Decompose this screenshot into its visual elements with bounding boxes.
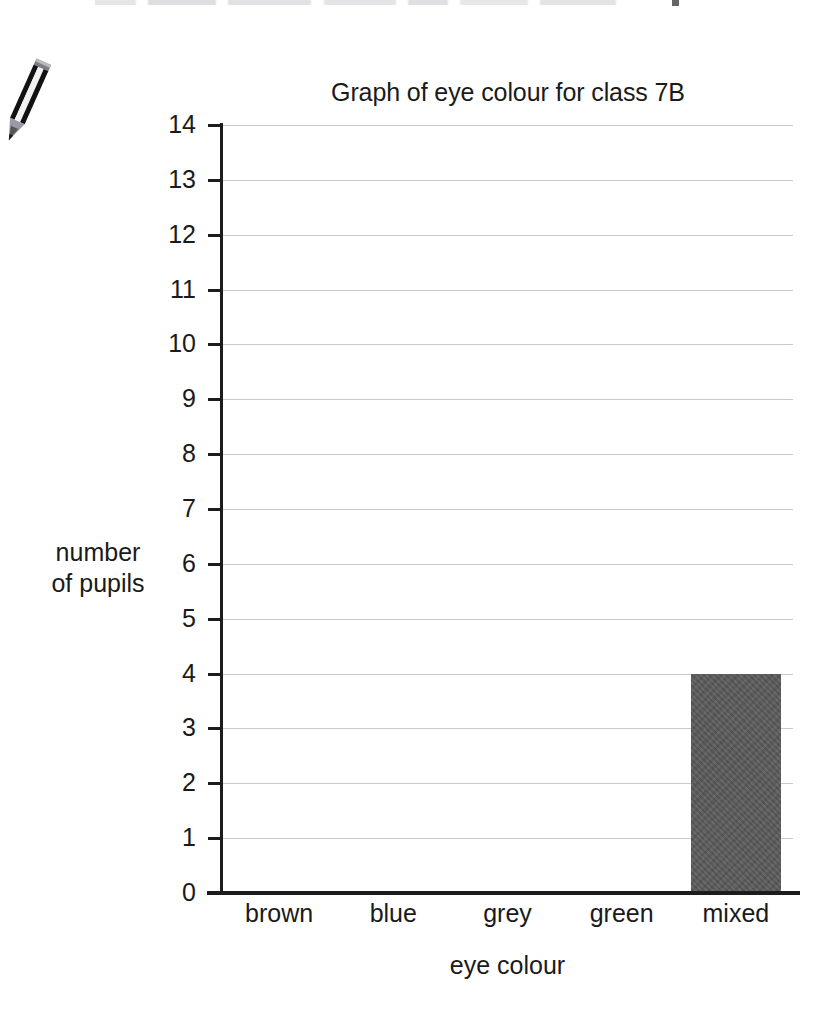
y-axis-tick-label: 8 [152, 441, 196, 466]
gridline [222, 399, 793, 400]
x-axis-category-label: mixed [679, 899, 793, 927]
y-axis-tick [208, 179, 222, 182]
x-axis-title: eye colour [222, 951, 793, 980]
y-axis-tick [208, 727, 222, 730]
y-axis-tick [208, 673, 222, 676]
y-axis-tick [208, 234, 222, 237]
y-axis-title-line: of pupils [18, 568, 178, 599]
y-axis-tick [208, 782, 222, 785]
gridline [222, 509, 793, 510]
gridline [222, 180, 793, 181]
y-axis-tick-label: 2 [152, 770, 196, 795]
y-axis-tick [208, 563, 222, 566]
y-axis-tick-label: 12 [152, 222, 196, 247]
x-axis-category-label: blue [336, 899, 450, 927]
y-axis-tick [208, 124, 222, 127]
y-axis-title-line: number [18, 537, 178, 568]
x-axis-line [207, 891, 800, 895]
y-axis-tick-label: 5 [152, 606, 196, 631]
y-axis-tick-label: 9 [152, 386, 196, 411]
x-axis-category-label: green [565, 899, 679, 927]
y-axis-tick [208, 398, 222, 401]
gridline [222, 564, 793, 565]
y-axis-title: numberof pupils [18, 537, 178, 599]
y-axis-tick [208, 453, 222, 456]
y-axis-tick [208, 618, 222, 621]
y-axis-tick-label: 4 [152, 661, 196, 686]
gridline [222, 290, 793, 291]
y-axis-tick-label: 11 [152, 277, 196, 302]
gridline [222, 619, 793, 620]
y-axis-tick-label: 1 [152, 825, 196, 850]
y-axis-tick [208, 837, 222, 840]
y-axis-tick [208, 343, 222, 346]
gridline [222, 344, 793, 345]
y-axis-tick-label: 13 [152, 167, 196, 192]
gridline [222, 125, 793, 126]
bar [691, 674, 781, 893]
bar-chart: Graph of eye colour for class 7B 1413121… [0, 0, 836, 1032]
y-axis-tick [208, 289, 222, 292]
gridline [222, 454, 793, 455]
plot-area [222, 125, 793, 893]
y-axis-tick-label: 0 [152, 880, 196, 905]
y-axis-tick-label: 7 [152, 496, 196, 521]
y-axis-tick-label: 3 [152, 715, 196, 740]
x-axis-category-label: grey [450, 899, 564, 927]
x-axis-category-label: brown [222, 899, 336, 927]
chart-title: Graph of eye colour for class 7B [222, 78, 794, 107]
y-axis-tick-label: 10 [152, 331, 196, 356]
gridline [222, 235, 793, 236]
y-axis-tick [208, 508, 222, 511]
y-axis-tick-label: 14 [152, 112, 196, 137]
y-axis-tick [208, 892, 222, 895]
